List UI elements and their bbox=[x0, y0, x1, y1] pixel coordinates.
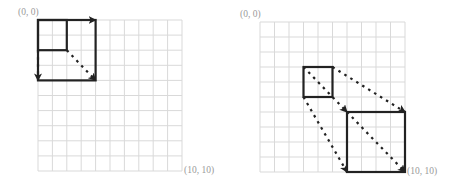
arrow-bottom-left-to-bottom-left-icon bbox=[304, 97, 348, 172]
grid bbox=[38, 20, 182, 171]
corner-label: (10, 10) bbox=[407, 166, 437, 177]
origin-label: (0, 0) bbox=[18, 7, 39, 18]
origin-label: (0, 0) bbox=[240, 9, 261, 20]
scale-down-panel: (0, 0)(10, 10) bbox=[18, 7, 214, 176]
translate-scale-panel: (0, 0)(10, 10) bbox=[240, 9, 437, 177]
corner-label: (10, 10) bbox=[184, 165, 214, 176]
arrow-top-left-to-top-left-icon bbox=[304, 67, 348, 112]
diagram-canvas: (0, 0)(10, 10) (0, 0)(10, 10) bbox=[0, 0, 456, 186]
arrow-top-right-to-top-right-icon bbox=[333, 67, 406, 112]
